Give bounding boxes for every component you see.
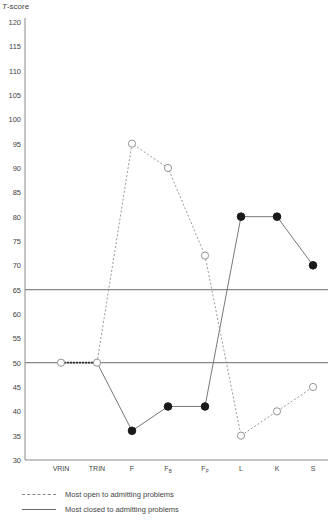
- y-tick-label: 115: [9, 42, 21, 51]
- x-tick-label: K: [275, 465, 280, 472]
- x-tick-label: S: [311, 465, 316, 472]
- open-marker: [201, 252, 208, 259]
- x-tick-label: VRIN: [53, 465, 70, 472]
- x-tick-label: TRIN: [89, 465, 105, 472]
- y-tick-label: 90: [13, 164, 21, 173]
- open-marker: [57, 359, 64, 366]
- y-tick-label: 55: [13, 334, 21, 343]
- x-tick-label: F: [130, 465, 134, 472]
- y-tick-label: 110: [9, 67, 21, 76]
- y-tick-label: 30: [13, 456, 21, 465]
- x-tick-label: FP: [201, 465, 208, 474]
- open-marker: [309, 383, 316, 390]
- legend-item-closed: Most closed to admitting problems: [22, 503, 179, 515]
- dashed-line-swatch: [22, 494, 56, 495]
- legend-label-open: Most open to admitting problems: [65, 490, 174, 499]
- y-tick-label: 80: [13, 213, 21, 222]
- filled-marker: [164, 403, 172, 411]
- y-tick-label: 85: [13, 188, 21, 197]
- y-tick-label: 50: [13, 359, 21, 368]
- closed-series-line: [97, 217, 313, 431]
- legend-label-closed: Most closed to admitting problems: [65, 505, 179, 514]
- y-tick-label: 65: [13, 286, 21, 295]
- y-tick-label: 70: [13, 261, 21, 270]
- y-tick-label: 35: [13, 432, 21, 441]
- y-tick-label: 95: [13, 140, 21, 149]
- y-tick-label: 45: [13, 383, 21, 392]
- y-tick-label: 105: [8, 91, 21, 100]
- y-tick-label: 120: [8, 18, 21, 27]
- y-tick-label: 100: [8, 115, 21, 124]
- open-marker: [128, 140, 135, 147]
- y-tick-label: 75: [13, 237, 21, 246]
- filled-marker: [309, 262, 317, 270]
- open-marker: [237, 432, 244, 439]
- filled-marker: [237, 213, 245, 221]
- x-tick-label: FB: [164, 465, 171, 474]
- t-score-chart: 3035404550556065707580859095100105110115…: [0, 0, 332, 480]
- filled-marker: [128, 427, 136, 435]
- open-marker: [164, 164, 171, 171]
- open-marker: [273, 408, 280, 415]
- filled-marker: [273, 213, 281, 221]
- y-tick-label: 60: [13, 310, 21, 319]
- filled-marker: [201, 403, 209, 411]
- x-tick-label: L: [239, 465, 243, 472]
- legend-item-open: Most open to admitting problems: [22, 488, 174, 500]
- y-tick-label: 40: [13, 407, 21, 416]
- solid-line-swatch: [22, 509, 56, 510]
- open-marker: [93, 359, 100, 366]
